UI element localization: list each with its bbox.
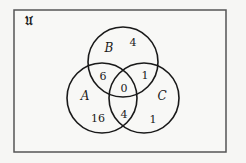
region-b-and-c-count: 1 [142,70,149,81]
set-a-label: A [81,90,90,102]
region-a-and-c-count: 4 [121,109,128,120]
region-b-only-count: 4 [130,37,137,48]
set-c-label: C [157,90,166,102]
region-a-only-count: 16 [91,113,105,124]
universe-label: 𝔘 [25,15,33,27]
region-c-only-count: 1 [150,114,157,125]
set-b-label: B [105,42,114,54]
region-a-and-b-count: 6 [100,71,107,82]
venn-diagram-canvas: 𝔘 B A C 4 6 1 0 16 4 1 [0,0,246,163]
region-a-b-c-count: 0 [121,83,128,94]
